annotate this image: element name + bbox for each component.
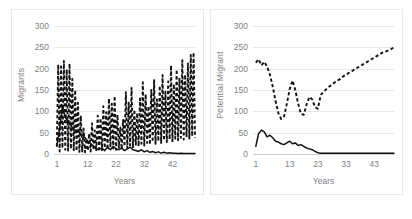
- chart-potential-migrant: Potential Migrant 3002502001501005001132…: [210, 9, 403, 195]
- y-tick-label: 100: [35, 106, 49, 116]
- y-tick-label: 100: [234, 106, 248, 116]
- x-axis-line: [253, 154, 394, 155]
- series-dashed-oscillating: [57, 52, 195, 152]
- y-tick-label: 250: [35, 42, 49, 52]
- y-tick-label: 50: [239, 128, 248, 138]
- series-solid-potential: [256, 130, 394, 153]
- y-axis-title-right: Potential Migrant: [213, 10, 227, 160]
- x-axis-title-right: Years: [253, 176, 394, 186]
- x-tick-label: 12: [83, 159, 92, 169]
- charts-row: Migrants 300250200150100500112223242 Yea…: [0, 0, 412, 219]
- x-tick-label: 22: [111, 159, 120, 169]
- y-tick-label: 150: [35, 85, 49, 95]
- chart-migrants: Migrants 300250200150100500112223242 Yea…: [11, 9, 204, 195]
- plot-area-left: 300250200150100500112223242: [54, 26, 195, 154]
- y-tick-label: 200: [35, 64, 49, 74]
- y-tick-label: 50: [40, 128, 49, 138]
- y-tick-label: 150: [234, 85, 248, 95]
- x-tick-label: 23: [313, 159, 322, 169]
- x-tick-label: 1: [253, 159, 258, 169]
- y-tick-label: 300: [35, 21, 49, 31]
- x-tick-label: 1: [54, 159, 59, 169]
- x-tick-label: 43: [370, 159, 379, 169]
- series-dashed-potential: [256, 47, 394, 119]
- x-tick-label: 32: [140, 159, 149, 169]
- x-axis-line: [54, 154, 195, 155]
- y-tick-label: 0: [44, 149, 49, 159]
- x-tick-label: 33: [341, 159, 350, 169]
- series-layer: [253, 26, 394, 154]
- y-tick-label: 0: [243, 149, 248, 159]
- x-tick-label: 42: [168, 159, 177, 169]
- y-tick-label: 250: [234, 42, 248, 52]
- y-axis-title-left: Migrants: [14, 10, 28, 160]
- x-tick-label: 13: [285, 159, 294, 169]
- y-tick-label: 200: [234, 64, 248, 74]
- series-layer: [54, 26, 195, 154]
- x-axis-title-left: Years: [54, 176, 195, 186]
- plot-area-right: 300250200150100500113233343: [253, 26, 394, 154]
- y-tick-label: 300: [234, 21, 248, 31]
